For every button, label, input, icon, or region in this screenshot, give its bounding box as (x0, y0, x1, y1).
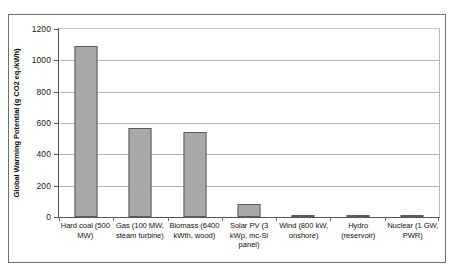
x-axis-label: Gas (100 MW, steam turbine) (113, 221, 168, 250)
bar (75, 46, 98, 217)
bar-slot (168, 29, 222, 217)
x-axis-labels-group: Hard coal (500 MW)Gas (100 MW, steam tur… (58, 221, 440, 250)
x-axis-label: Biomass (6400 kWth, wood) (167, 221, 222, 250)
bar-slot (59, 29, 113, 217)
plot-area: 120010008006004002000 (58, 28, 440, 218)
bar-slot (113, 29, 167, 217)
y-axis-tick-label: 0 (46, 212, 51, 222)
y-axis-tick-label: 200 (37, 181, 51, 191)
bar (237, 204, 260, 217)
y-axis-tick-label: 1000 (32, 55, 51, 65)
x-axis-label: Solar PV (3 kWp, mc-Si panel) (222, 221, 277, 250)
bars-group (59, 29, 439, 217)
x-axis-label: Hard coal (500 MW) (58, 221, 113, 250)
x-axis-label: Wind (800 kW, onshore) (276, 221, 331, 250)
y-axis-tick-label: 600 (37, 118, 51, 128)
x-axis-label: Nuclear (1 GW, PWR) (385, 221, 440, 250)
x-axis-label: Hydro (reservoir) (331, 221, 386, 250)
y-axis-tick-label: 1200 (32, 24, 51, 34)
bar (346, 215, 369, 217)
bar (292, 215, 315, 217)
bar (400, 215, 423, 217)
bar-slot (385, 29, 439, 217)
y-axis-tick-label: 800 (37, 87, 51, 97)
bar-slot (330, 29, 384, 217)
bar (183, 132, 206, 217)
bar-slot (276, 29, 330, 217)
figure-container: Global Warming Potential (g CO2 eq./kWh)… (0, 0, 456, 277)
bar-slot (222, 29, 276, 217)
bar (129, 128, 152, 217)
y-axis-tick-label: 400 (37, 149, 51, 159)
y-axis-title: Global Warming Potential (g CO2 eq./kWh) (10, 28, 24, 218)
